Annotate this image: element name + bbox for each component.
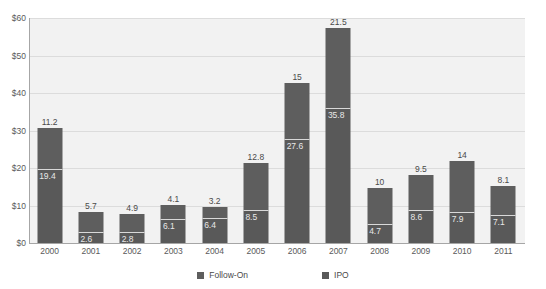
x-axis: 2000200120022003200420052006200720082009… bbox=[29, 246, 524, 262]
x-tick-label: 2001 bbox=[70, 246, 111, 256]
bar-stack[interactable]: 12.88.5 bbox=[243, 163, 268, 243]
bar-group[interactable]: 12.88.512.8 bbox=[235, 18, 276, 243]
bar-segment-follow-on[interactable]: 8.1 bbox=[491, 186, 516, 216]
bar-group[interactable]: 1527.615 bbox=[277, 18, 318, 243]
bars-layer: 11.219.411.25.72.65.74.92.84.94.16.14.13… bbox=[29, 18, 524, 243]
bar-group[interactable]: 4.92.84.9 bbox=[112, 18, 153, 243]
y-axis: $0$10$20$30$40$50$60 bbox=[0, 18, 26, 244]
bar-segment-ipo[interactable]: 7.9 bbox=[450, 213, 475, 243]
y-tick-label: $10 bbox=[2, 202, 26, 211]
x-tick-label: 2007 bbox=[318, 246, 359, 256]
bar-segment-ipo[interactable]: 8.5 bbox=[243, 211, 268, 243]
legend-item[interactable]: Follow-On bbox=[197, 270, 248, 280]
legend-swatch-icon bbox=[322, 272, 329, 279]
ipo-value-label: 2.8 bbox=[122, 234, 134, 244]
bar-segment-follow-on[interactable]: 12.8 bbox=[243, 163, 268, 211]
bar-segment-ipo[interactable]: 35.8 bbox=[326, 109, 351, 243]
ipo-value-label: 19.4 bbox=[39, 171, 56, 181]
bar-segment-ipo[interactable]: 6.1 bbox=[161, 220, 186, 243]
y-tick-label: $0 bbox=[2, 239, 26, 248]
bar-stack[interactable]: 11.219.4 bbox=[37, 128, 62, 243]
bar-group[interactable]: 147.914 bbox=[442, 18, 483, 243]
bar-group[interactable]: 11.219.411.2 bbox=[29, 18, 70, 243]
bar-group[interactable]: 3.26.43.2 bbox=[194, 18, 235, 243]
ipo-value-label: 2.6 bbox=[80, 234, 92, 244]
ipo-value-label: 7.9 bbox=[452, 214, 464, 224]
ipo-value-label: 35.8 bbox=[328, 110, 345, 120]
y-tick-label: $40 bbox=[2, 89, 26, 98]
bar-top-value-label: 3.2 bbox=[209, 196, 221, 206]
bar-top-value-label: 9.5 bbox=[415, 164, 427, 174]
x-tick-label: 2010 bbox=[442, 246, 483, 256]
bar-top-value-label: 8.1 bbox=[497, 175, 509, 185]
x-tick-label: 2004 bbox=[194, 246, 235, 256]
bar-top-value-label: 14 bbox=[457, 150, 466, 160]
x-tick-label: 2011 bbox=[483, 246, 524, 256]
bar-segment-follow-on[interactable]: 4.1 bbox=[161, 205, 186, 220]
bar-stack[interactable]: 4.16.1 bbox=[161, 205, 186, 243]
bar-segment-ipo[interactable]: 7.1 bbox=[491, 216, 516, 243]
bar-segment-ipo[interactable]: 19.4 bbox=[37, 170, 62, 243]
ipo-value-label: 6.4 bbox=[204, 220, 216, 230]
x-tick-label: 2009 bbox=[400, 246, 441, 256]
bar-segment-ipo[interactable]: 27.6 bbox=[285, 140, 310, 244]
bar-top-value-label: 4.1 bbox=[167, 194, 179, 204]
bar-segment-follow-on[interactable]: 14 bbox=[450, 161, 475, 214]
bar-top-value-label: 12.8 bbox=[248, 152, 265, 162]
bar-stack[interactable]: 5.72.6 bbox=[78, 212, 103, 243]
bar-group[interactable]: 21.535.821.5 bbox=[318, 18, 359, 243]
bar-stack[interactable]: 8.17.1 bbox=[491, 186, 516, 243]
legend-label: Follow-On bbox=[209, 270, 248, 280]
x-tick-label: 2008 bbox=[359, 246, 400, 256]
x-tick-label: 2000 bbox=[29, 246, 70, 256]
bar-segment-follow-on[interactable]: 9.5 bbox=[408, 175, 433, 211]
legend-item[interactable]: IPO bbox=[322, 270, 349, 280]
bar-segment-follow-on[interactable]: 5.7 bbox=[78, 212, 103, 233]
bar-group[interactable]: 9.58.69.5 bbox=[400, 18, 441, 243]
bar-segment-follow-on[interactable]: 10 bbox=[367, 188, 392, 226]
legend-swatch-icon bbox=[197, 272, 204, 279]
bar-segment-ipo[interactable]: 2.8 bbox=[120, 233, 145, 244]
ipo-value-label: 6.1 bbox=[163, 221, 175, 231]
bar-stack[interactable]: 4.92.8 bbox=[120, 214, 145, 243]
x-tick-label: 2005 bbox=[235, 246, 276, 256]
bar-stack[interactable]: 147.9 bbox=[450, 161, 475, 243]
bar-top-value-label: 21.5 bbox=[330, 17, 347, 27]
bar-stack[interactable]: 1527.6 bbox=[285, 83, 310, 243]
bar-segment-ipo[interactable]: 2.6 bbox=[78, 233, 103, 243]
y-tick-label: $20 bbox=[2, 164, 26, 173]
bar-top-value-label: 10 bbox=[375, 177, 384, 187]
bar-top-value-label: 15 bbox=[292, 72, 301, 82]
y-tick-label: $60 bbox=[2, 14, 26, 23]
ipo-value-label: 7.1 bbox=[493, 217, 505, 227]
x-tick-label: 2002 bbox=[112, 246, 153, 256]
bar-top-value-label: 11.2 bbox=[42, 117, 58, 127]
bar-segment-ipo[interactable]: 8.6 bbox=[408, 211, 433, 243]
bar-group[interactable]: 4.16.14.1 bbox=[153, 18, 194, 243]
bar-stack[interactable]: 21.535.8 bbox=[326, 28, 351, 243]
bar-segment-follow-on[interactable]: 3.2 bbox=[202, 207, 227, 219]
bar-segment-ipo[interactable]: 6.4 bbox=[202, 219, 227, 243]
ipo-value-label: 8.5 bbox=[245, 212, 257, 222]
bar-group[interactable]: 104.710 bbox=[359, 18, 400, 243]
ipo-value-label: 4.7 bbox=[369, 226, 381, 236]
bar-segment-follow-on[interactable]: 21.5 bbox=[326, 28, 351, 109]
bar-stack[interactable]: 9.58.6 bbox=[408, 175, 433, 243]
bar-group[interactable]: 5.72.65.7 bbox=[70, 18, 111, 243]
bar-top-value-label: 4.9 bbox=[126, 203, 138, 213]
bar-top-value-label: 5.7 bbox=[85, 201, 97, 211]
chart-legend: Follow-OnIPO bbox=[0, 268, 546, 282]
bar-segment-follow-on[interactable]: 4.9 bbox=[120, 214, 145, 232]
y-tick-label: $50 bbox=[2, 52, 26, 61]
legend-label: IPO bbox=[334, 270, 349, 280]
y-tick-label: $30 bbox=[2, 127, 26, 136]
bar-segment-follow-on[interactable]: 11.2 bbox=[37, 128, 62, 170]
bar-segment-ipo[interactable]: 4.7 bbox=[367, 225, 392, 243]
bar-stack[interactable]: 3.26.4 bbox=[202, 207, 227, 243]
bar-segment-follow-on[interactable]: 15 bbox=[285, 83, 310, 139]
ipo-value-label: 27.6 bbox=[287, 141, 304, 151]
ipo-value-label: 8.6 bbox=[410, 212, 422, 222]
bar-group[interactable]: 8.17.18.1 bbox=[483, 18, 524, 243]
x-tick-label: 2003 bbox=[153, 246, 194, 256]
bar-stack[interactable]: 104.7 bbox=[367, 188, 392, 243]
